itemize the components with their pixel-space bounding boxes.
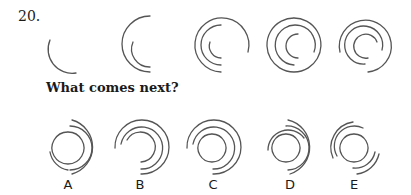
option-a-figure[interactable] — [46, 120, 96, 175]
question-prompt: What comes next? — [46, 80, 179, 95]
option-a-label[interactable]: A — [58, 177, 78, 192]
sequence-figure-4 — [262, 12, 327, 77]
sequence-figure-2 — [118, 12, 168, 77]
sequence-figure-3 — [188, 12, 253, 77]
option-c-label[interactable]: C — [203, 177, 223, 192]
option-b-figure[interactable] — [113, 120, 168, 175]
option-e-label[interactable]: E — [344, 177, 364, 192]
question-number: 20. — [18, 8, 40, 24]
option-d-figure[interactable] — [262, 120, 317, 175]
option-b-label[interactable]: B — [130, 177, 150, 192]
option-d-label[interactable]: D — [280, 177, 300, 192]
sequence-figure-1 — [40, 28, 90, 78]
option-e-figure[interactable] — [327, 120, 382, 175]
sequence-figure-5 — [332, 12, 397, 77]
option-c-figure[interactable] — [185, 120, 240, 175]
